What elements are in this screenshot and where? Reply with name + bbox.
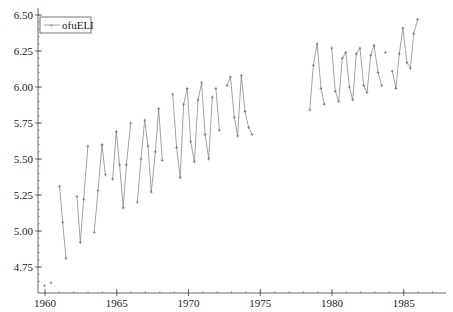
legend-label: ofuELI [62,19,94,31]
x-tick-label: 1960 [34,297,57,309]
axes: 4.755.005.255.505.756.006.256.5019601965… [14,8,446,309]
y-tick-label: 4.75 [14,261,34,273]
series-line-segment [77,146,88,243]
y-tick-label: 5.50 [14,153,34,165]
series-line-segment [392,19,417,88]
y-tick-label: 5.75 [14,117,34,129]
series-line-segment [137,109,162,203]
line-chart: 4.755.005.255.505.756.006.256.5019601965… [0,0,453,312]
legend: + ofuELI [40,17,94,33]
y-tick-label: 5.25 [14,189,34,201]
y-tick-label: 6.50 [14,9,34,21]
x-tick-label: 1970 [178,297,201,309]
y-tick-label: 5.00 [14,225,34,237]
series-ofuELI [43,18,419,287]
legend-marker-icon: + [49,21,54,30]
series-line-segment [113,123,131,208]
y-tick-label: 6.00 [14,81,34,93]
series-line-segment [173,83,213,178]
series-line-segment [94,145,105,233]
series-line-segment [310,44,325,110]
x-tick-label: 1985 [393,297,416,309]
x-tick-label: 1980 [321,297,344,309]
x-tick-label: 1965 [106,297,129,309]
y-tick-label: 6.25 [14,45,34,57]
series-line-segment [216,88,220,130]
x-tick-label: 1975 [249,297,272,309]
